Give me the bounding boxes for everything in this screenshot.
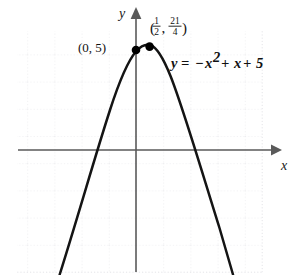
vertex-close-paren: ) — [182, 20, 187, 37]
y-intercept-label: (0, 5) — [78, 40, 106, 55]
vertex-comma: , — [162, 20, 166, 36]
equation-term3-operator: + — [243, 55, 251, 71]
equation-term1-var: x — [204, 55, 212, 71]
equation-term2-operator: + — [221, 55, 229, 71]
equation-lhs: y — [169, 55, 178, 71]
equation-term1-exponent: 2 — [212, 49, 220, 65]
equation-term3: 5 — [256, 55, 263, 71]
point-vertex — [145, 42, 154, 51]
equation-equals: = — [181, 55, 189, 71]
vertex-x-numerator: 1 — [154, 16, 159, 26]
equation-term1-sign: − — [195, 55, 204, 71]
parabola-chart: y x (0, 5) ( 1 2 , 21 4 ) y = − x 2 + x … — [0, 0, 298, 275]
equation-term2: x — [233, 55, 241, 71]
vertex-y-denominator: 4 — [173, 27, 178, 37]
vertex-y-numerator: 21 — [170, 16, 180, 26]
y-axis-label: y — [117, 6, 126, 21]
x-axis-label: x — [280, 158, 288, 173]
vertex-x-denominator: 2 — [154, 27, 159, 37]
point-y-intercept — [132, 46, 141, 55]
